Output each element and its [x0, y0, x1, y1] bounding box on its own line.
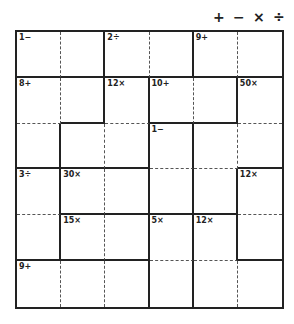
grid-cell[interactable]: 2÷: [105, 32, 149, 78]
grid-cell[interactable]: 3÷: [17, 169, 61, 215]
cage-clue: 50×: [240, 79, 258, 88]
grid-cell[interactable]: [17, 215, 61, 261]
grid-cell[interactable]: [238, 124, 282, 170]
cage-clue: 15×: [63, 216, 81, 225]
grid-cell[interactable]: 12×: [194, 215, 238, 261]
grid-cell[interactable]: 1−: [17, 32, 61, 78]
cage-clue: 1−: [19, 33, 31, 42]
grid-cell[interactable]: 8+: [17, 78, 61, 124]
grid-cell[interactable]: [61, 124, 105, 170]
cage-clue: 12×: [196, 216, 214, 225]
grid-cell[interactable]: [194, 78, 238, 124]
grid-cell[interactable]: [150, 169, 194, 215]
grid-cell[interactable]: [150, 261, 194, 307]
operator-legend: + − × ÷: [213, 9, 284, 25]
minus-operator: −: [233, 9, 244, 25]
grid-cell[interactable]: [150, 32, 194, 78]
grid-cell[interactable]: [105, 124, 149, 170]
grid-cell[interactable]: 9+: [17, 261, 61, 307]
multiply-operator: ×: [253, 9, 264, 25]
grid-cell[interactable]: 10+: [150, 78, 194, 124]
cage-clue: 2÷: [107, 33, 119, 42]
cage-clue: 8+: [19, 79, 31, 88]
grid-cell[interactable]: [238, 261, 282, 307]
cage-clue: 10+: [152, 79, 170, 88]
grid-cell[interactable]: 50×: [238, 78, 282, 124]
grid-cell[interactable]: [194, 261, 238, 307]
grid-cell[interactable]: [61, 32, 105, 78]
cage-clue: 30×: [63, 170, 81, 179]
grid-cell[interactable]: [238, 32, 282, 78]
grid-cell[interactable]: [105, 169, 149, 215]
grid-cell[interactable]: [194, 124, 238, 170]
cage-clue: 3÷: [19, 170, 31, 179]
kenken-grid: 1−2÷9+8+12×10+50×1−3÷30×12×15×5×12×9+: [15, 30, 284, 309]
grid-cell[interactable]: [61, 261, 105, 307]
grid-cell[interactable]: 12×: [238, 169, 282, 215]
grid-cell[interactable]: [105, 261, 149, 307]
grid-cell[interactable]: [17, 124, 61, 170]
grid-cell[interactable]: 9+: [194, 32, 238, 78]
grid-cell[interactable]: [194, 169, 238, 215]
cage-clue: 9+: [19, 262, 31, 271]
cage-clue: 1−: [152, 125, 164, 134]
cage-clue: 9+: [196, 33, 208, 42]
grid-cell[interactable]: 5×: [150, 215, 194, 261]
grid-cell[interactable]: 12×: [105, 78, 149, 124]
grid-cell[interactable]: 1−: [150, 124, 194, 170]
grid-cell[interactable]: [61, 78, 105, 124]
divide-operator: ÷: [273, 9, 284, 25]
cage-clue: 5×: [152, 216, 164, 225]
cage-clue: 12×: [240, 170, 258, 179]
plus-operator: +: [213, 9, 224, 25]
grid-cell[interactable]: 30×: [61, 169, 105, 215]
grid-cell[interactable]: [238, 215, 282, 261]
grid-cell[interactable]: [105, 215, 149, 261]
grid-cell[interactable]: 15×: [61, 215, 105, 261]
cage-clue: 12×: [107, 79, 125, 88]
